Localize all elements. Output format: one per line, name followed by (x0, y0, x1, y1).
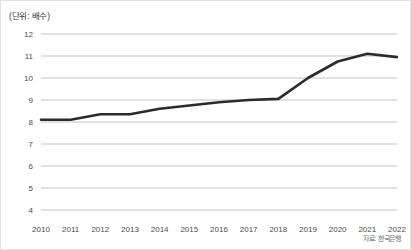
x-tick-label: 2011 (56, 225, 86, 234)
x-tick-label: 2015 (174, 225, 204, 234)
x-tick-label: 2018 (263, 225, 293, 234)
data-series-line (41, 54, 397, 120)
x-tick-label: 2013 (115, 225, 145, 234)
y-tick-label: 4 (9, 206, 33, 215)
x-tick-label: 2014 (145, 225, 175, 234)
y-tick-label: 10 (9, 74, 33, 83)
x-tick-label: 2012 (85, 225, 115, 234)
x-tick-label: 2017 (234, 225, 264, 234)
x-tick-label: 2010 (26, 225, 56, 234)
x-tick-label: 2020 (323, 225, 353, 234)
plot-area: 121110987654 201020112012201320142015201… (1, 1, 411, 250)
chart-canvas (1, 1, 411, 250)
y-tick-label: 6 (9, 162, 33, 171)
chart-screenshot: (단위: 배수) 121110987654 201020112012201320… (0, 0, 411, 250)
x-tick-label: 2019 (293, 225, 323, 234)
y-tick-label: 9 (9, 96, 33, 105)
y-tick-label: 12 (9, 30, 33, 39)
y-tick-label: 7 (9, 140, 33, 149)
source-note: 자료: 한국은행 (363, 233, 401, 243)
x-tick-label: 2016 (204, 225, 234, 234)
y-tick-label: 8 (9, 118, 33, 127)
y-tick-label: 5 (9, 184, 33, 193)
y-tick-label: 11 (9, 52, 33, 61)
